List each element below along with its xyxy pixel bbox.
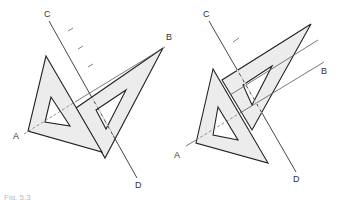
left-label-d: D [135, 180, 142, 190]
right-label-c: C [203, 9, 210, 19]
right-line-a-ext [186, 140, 196, 146]
left-label-a: A [13, 131, 19, 141]
left-label-b: B [166, 32, 172, 42]
right-diagram: A B C D [174, 9, 327, 184]
right-label-b: B [321, 66, 327, 76]
left-label-c: C [44, 9, 51, 19]
left-dash-3 [88, 64, 93, 67]
set-square-diagram: A B C D A B C D Fig. 5.3 [0, 0, 338, 200]
left-dash-1 [68, 28, 73, 31]
right-label-a: A [174, 150, 180, 160]
left-diagram: A B C D [13, 9, 172, 190]
left-dash-2 [78, 46, 83, 49]
right-dash-1 [233, 38, 239, 42]
figure-caption: Fig. 5.3 [4, 193, 31, 200]
right-label-d: D [293, 174, 300, 184]
